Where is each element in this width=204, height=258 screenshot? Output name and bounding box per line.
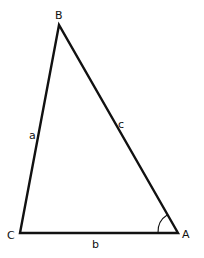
angle-a-arc bbox=[158, 215, 168, 233]
vertex-label-c: C bbox=[7, 229, 15, 242]
vertex-label-a: A bbox=[182, 228, 190, 241]
triangle-abc bbox=[20, 25, 178, 233]
side-label-c: c bbox=[118, 118, 124, 131]
side-label-a: a bbox=[29, 129, 36, 142]
vertex-label-b: B bbox=[55, 9, 63, 22]
triangle-diagram: B C A a c b bbox=[0, 0, 204, 258]
side-label-b: b bbox=[92, 238, 99, 251]
